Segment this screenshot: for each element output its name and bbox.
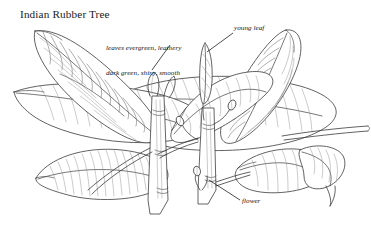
- botanical-illustration: .o{fill:none;stroke:#3a3a3a;stroke-width…: [0, 0, 371, 228]
- annotation-flower: flower: [242, 197, 260, 205]
- annotation-leaves-line1: leaves evergreen, leathery: [106, 44, 181, 52]
- annotation-young-leaf: young leaf: [234, 24, 264, 32]
- figure-title: Indian Rubber Tree: [20, 8, 110, 21]
- illustration-canvas: .o{fill:none;stroke:#3a3a3a;stroke-width…: [0, 0, 371, 228]
- annotation-leaves: leaves evergreen, leathery dark green, s…: [106, 27, 181, 94]
- annotation-leaves-line2: dark green, shiny, smooth: [106, 69, 181, 77]
- lower-right-leaf-2: [299, 146, 345, 206]
- leader-line-young-leaf: [207, 33, 233, 52]
